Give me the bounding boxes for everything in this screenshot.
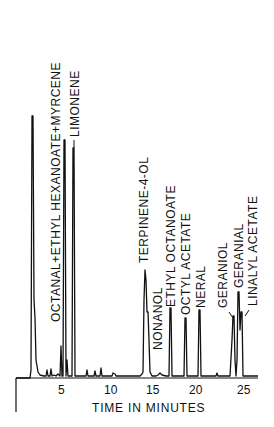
label-nonanol: NONANOL	[151, 287, 165, 350]
label-limonene: LIMONENE	[68, 70, 82, 137]
x-tick-10: 10	[104, 383, 118, 397]
label-neral: NERAL	[194, 265, 208, 308]
label-octanal-ethyl-hexanoate-myrcene: OCTANAL+ETHYL HEXANOATE+MYRCENE	[49, 62, 63, 322]
label-geraniol: GERANIOL	[216, 242, 230, 308]
x-tick-20: 20	[189, 383, 203, 397]
x-tick-25: 25	[237, 383, 251, 397]
label-ethyl-octanoate: ETHYL OCTANOATE	[164, 185, 178, 307]
x-tick-5: 5	[58, 383, 65, 397]
label-geranial: GERANIAL	[232, 223, 246, 288]
x-tick-labels: 5 10 15 20 25	[58, 383, 251, 397]
chromatogram-chart: OCTANAL+ETHYL HEXANOATE+MYRCENE LIMONENE…	[0, 0, 274, 427]
x-tick-15: 15	[146, 383, 160, 397]
label-linalyl-acetate: LINALYL ACETATE	[246, 196, 260, 306]
peak-labels: OCTANAL+ETHYL HEXANOATE+MYRCENE LIMONENE…	[49, 62, 260, 350]
label-octyl-acetate: OCTYL ACETATE	[179, 213, 193, 315]
label-terpinene-4-ol: TERPINENE-4-OL	[137, 157, 151, 263]
x-axis-label: TIME IN MINUTES	[92, 401, 205, 415]
